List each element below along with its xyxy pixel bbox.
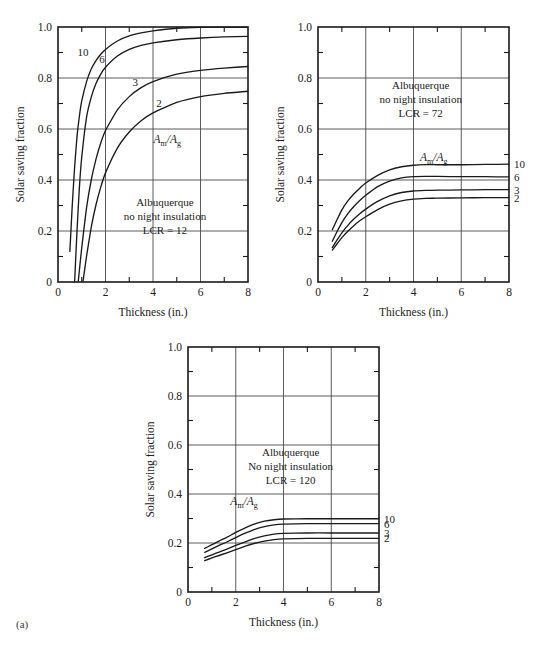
y-tick-label: 0.4 — [168, 488, 183, 500]
tick-labels: 0246800.20.40.60.81.0 — [38, 21, 252, 298]
y-tick-label: 0.2 — [38, 225, 53, 237]
x-tick-label: 8 — [376, 596, 382, 608]
tick-labels: 0246800.20.40.60.81.0 — [298, 21, 513, 298]
annotation-line: no night insulation — [379, 93, 462, 105]
x-axis-title: Thickness (in.) — [249, 616, 318, 629]
curve-am-ag-2 — [205, 538, 379, 560]
y-tick-label: 0.6 — [38, 123, 53, 135]
data-curves — [70, 27, 248, 282]
y-tick-label: 0.4 — [38, 174, 53, 186]
y-tick-label: 1.0 — [38, 21, 53, 33]
annotation-line: Albuquerque — [262, 446, 320, 458]
x-tick-label: 0 — [55, 286, 61, 298]
chart-panel-lcr-72: 0246800.20.40.60.81.0Thickness (in.)Sola… — [270, 0, 540, 330]
curve-am-ag-2 — [332, 198, 509, 251]
y-tick-label: 0.2 — [168, 537, 183, 549]
gridlines — [58, 27, 248, 282]
x-tick-label: 6 — [328, 596, 334, 608]
y-tick-label: 0.2 — [298, 225, 313, 237]
ratio-label: Am/Ag — [229, 495, 258, 510]
curve-label-6: 6 — [514, 171, 520, 183]
x-tick-label: 4 — [411, 286, 417, 298]
x-tick-label: 2 — [233, 596, 239, 608]
data-curves — [205, 519, 379, 561]
annotation-line: LCR = 120 — [266, 474, 316, 486]
x-tick-label: 0 — [315, 286, 321, 298]
y-tick-label: 0 — [306, 276, 312, 288]
x-tick-label: 0 — [185, 596, 191, 608]
annotation-line: LCR = 12 — [143, 224, 187, 236]
x-tick-label: 6 — [198, 286, 204, 298]
ratio-label: Am/Ag — [153, 133, 182, 148]
data-curves — [332, 164, 509, 250]
x-tick-label: 8 — [245, 286, 251, 298]
gridlines — [318, 27, 509, 282]
y-axis-title: Solar saving fraction — [14, 106, 27, 202]
x-tick-label: 2 — [363, 286, 369, 298]
y-tick-label: 1.0 — [168, 341, 183, 353]
y-tick-label: 0.6 — [298, 123, 313, 135]
y-tick-label: 0.8 — [38, 72, 53, 84]
y-tick-label: 0 — [46, 276, 52, 288]
annotation-line: Albuquerque — [392, 79, 450, 91]
chart-panel-lcr-12: 0246800.20.40.60.81.0Thickness (in.)Sola… — [0, 0, 270, 330]
y-tick-label: 0.8 — [298, 72, 313, 84]
plot-area-1: 0246800.20.40.60.81.0Thickness (in.)Sola… — [270, 0, 540, 330]
curve-label-6: 6 — [99, 53, 105, 65]
y-tick-label: 1.0 — [298, 21, 313, 33]
curve-am-ag-3 — [205, 533, 379, 558]
y-tick-label: 0.6 — [168, 439, 183, 451]
annotation-line: LCR = 72 — [399, 107, 443, 119]
curve-label-10: 10 — [77, 46, 89, 58]
curve-label-2: 2 — [384, 532, 390, 544]
annotation-line: No night insulation — [248, 460, 333, 472]
curve-label-10: 10 — [514, 158, 526, 170]
figure-label: (a) — [16, 618, 28, 630]
chart-panel-lcr-120: 0246800.20.40.60.81.0Thickness (in.)Sola… — [130, 330, 410, 646]
x-tick-label: 2 — [103, 286, 109, 298]
plot-area-2: 0246800.20.40.60.81.0Thickness (in.)Sola… — [130, 330, 410, 646]
curve-label-2: 2 — [514, 192, 520, 204]
x-axis-title: Thickness (in.) — [379, 306, 448, 319]
annotation-line: Albuquerque — [136, 196, 194, 208]
y-axis-title: Solar saving fraction — [144, 421, 157, 517]
x-tick-label: 4 — [281, 596, 287, 608]
curve-am-ag-6 — [75, 36, 248, 282]
curve-label-2: 2 — [156, 97, 162, 109]
y-tick-label: 0.4 — [298, 174, 313, 186]
plot-area-0: 0246800.20.40.60.81.0Thickness (in.)Sola… — [0, 0, 270, 330]
x-tick-label: 4 — [150, 286, 156, 298]
curve-am-ag-3 — [78, 67, 248, 282]
x-axis-title: Thickness (in.) — [119, 306, 188, 319]
annotation-line: no night insulation — [124, 210, 207, 222]
curve-am-ag-6 — [332, 176, 509, 241]
curve-label-3: 3 — [132, 76, 138, 88]
x-tick-label: 6 — [458, 286, 464, 298]
curve-am-ag-2 — [83, 91, 248, 282]
ratio-label: Am/Ag — [419, 151, 448, 166]
y-axis-title: Solar saving fraction — [274, 106, 287, 202]
y-tick-label: 0.8 — [168, 390, 183, 402]
x-tick-label: 8 — [506, 286, 512, 298]
y-tick-label: 0 — [176, 586, 182, 598]
